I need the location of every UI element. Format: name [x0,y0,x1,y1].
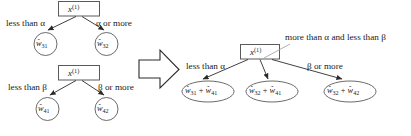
left-top-root-label: x(1) [68,4,79,14]
right-root-label: x(1) [250,47,261,57]
right-leaf-3-label: ̂w32 + ̂w42 [327,87,359,96]
right-leaf-2-label: ̂w32 + ̂w41 [249,87,281,96]
left-top-edge-left [48,17,76,31]
figure-canvas: x(1) less than α α or more ̂w31 ̂w32 x(1… [0,0,411,136]
right-edge-label-right: β or more [307,62,343,71]
left-top-edge-label-right: α or more [96,19,132,28]
merge-block-arrow-shape [139,50,179,88]
left-top-leaf-1-label: ̂w31 [36,40,48,49]
right-leaf-1-label: ̂w31 + ̂w41 [185,87,217,96]
left-bottom-leaf-1-label: ̂w41 [38,105,50,114]
right-edge-label-left: less than α [186,62,225,71]
left-bottom-leaf-2-label: ̂w42 [97,105,109,114]
right-edge-label-middle: more than α and less than β [285,33,386,42]
left-bottom-edge-left [50,81,76,96]
left-top-leaf-2-label: ̂w32 [97,40,109,49]
left-bottom-edge-label-left: less than β [8,83,47,92]
left-bottom-edge-label-right: β or more [98,83,134,92]
left-bottom-root-label: x(1) [68,68,79,78]
left-top-edge-label-left: less than α [6,19,45,28]
right-edge-middle [260,60,268,80]
